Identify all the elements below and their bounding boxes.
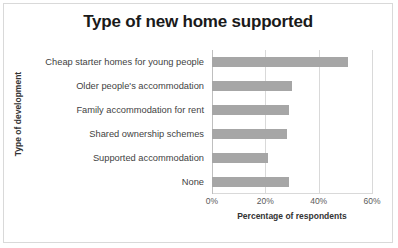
- x-axis-title: Percentage of respondents: [212, 211, 372, 221]
- y-axis-tick-label: Supported accommodation: [24, 146, 208, 170]
- bar: [212, 177, 289, 187]
- bar-slot: [212, 50, 372, 74]
- gridline: [372, 50, 373, 194]
- bar-slot: [212, 170, 372, 194]
- bar-series: [212, 50, 372, 194]
- chart-title: Type of new home supported: [4, 12, 392, 32]
- y-axis-tick-label: Cheap starter homes for young people: [24, 50, 208, 74]
- y-axis-title: Type of development: [13, 59, 23, 169]
- x-axis-tick-labels: 0% 20% 40% 60%: [212, 196, 372, 208]
- bar-slot: [212, 122, 372, 146]
- bar-slot: [212, 146, 372, 170]
- bar-slot: [212, 74, 372, 98]
- y-axis-tick-label: Family accommodation for rent: [24, 98, 208, 122]
- y-axis-tick-label: Shared ownership schemes: [24, 122, 208, 146]
- y-axis-tick-label: Older people's accommodation: [24, 74, 208, 98]
- bar-slot: [212, 98, 372, 122]
- plot-area: [212, 50, 372, 194]
- x-axis-tick-label: 60%: [363, 196, 380, 206]
- x-axis-tick-label: 40%: [310, 196, 327, 206]
- bar: [212, 153, 268, 163]
- bar: [212, 129, 287, 139]
- y-axis-tick-labels: Cheap starter homes for young people Old…: [24, 50, 208, 194]
- x-axis-tick-label: 0%: [206, 196, 218, 206]
- bar: [212, 57, 348, 67]
- chart-frame: Type of new home supported Type of devel…: [3, 3, 393, 243]
- bar: [212, 105, 289, 115]
- bar: [212, 81, 292, 91]
- x-axis-tick-label: 20%: [257, 196, 274, 206]
- y-axis-tick-label: None: [24, 170, 208, 194]
